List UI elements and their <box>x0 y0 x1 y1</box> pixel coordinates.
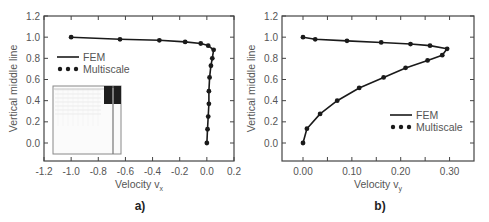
y-tick-label: 0.8 <box>264 53 278 64</box>
y-tick-label: 1.0 <box>26 32 40 43</box>
x-tick-label: 0.0 <box>200 166 214 177</box>
y-tick-label: 1.0 <box>264 32 278 43</box>
series-multiscale-marker <box>335 98 340 103</box>
panel-a-velocity-vx: -1.2-1.0-0.8-0.6-0.4-0.20.00.20.00.20.40… <box>7 11 241 214</box>
legend-multiscale-marker-swatch <box>66 67 70 71</box>
y-tick-label: 0.6 <box>26 74 40 85</box>
legend-multiscale-marker-swatch <box>407 125 411 129</box>
legend-multiscale-marker-swatch <box>399 125 403 129</box>
y-tick-label: 0.6 <box>264 74 278 85</box>
series-multiscale-marker <box>318 112 323 117</box>
series-multiscale-marker <box>206 101 211 106</box>
series-multiscale-marker <box>301 35 306 40</box>
x-tick-label: 0.00 <box>293 166 313 177</box>
legend: FEMMultiscale <box>57 51 130 75</box>
x-axis-label-subscript: x <box>159 185 163 192</box>
y-tick-label: 0.4 <box>26 95 40 106</box>
series-multiscale-marker <box>211 47 216 52</box>
x-axis-label: Velocity vy <box>354 178 402 193</box>
series-multiscale-marker <box>206 89 211 94</box>
x-tick-label: -0.2 <box>171 166 189 177</box>
y-tick-label: 1.2 <box>264 11 278 22</box>
y-tick-label: 0.2 <box>264 116 278 127</box>
series-multiscale-marker <box>198 41 203 46</box>
panel-label: a) <box>135 199 146 213</box>
legend-multiscale-marker-swatch <box>74 67 78 71</box>
series-multiscale-marker <box>445 46 450 51</box>
legend-fem-label: FEM <box>83 51 105 63</box>
legend-fem-label: FEM <box>416 109 438 121</box>
series-multiscale-marker <box>313 37 318 42</box>
series-multiscale-marker <box>69 35 74 40</box>
y-tick-label: 0.4 <box>264 95 278 106</box>
series-multiscale-marker <box>157 38 162 43</box>
series-multiscale-marker <box>428 43 433 48</box>
figure-canvas: -1.2-1.0-0.8-0.6-0.4-0.20.00.20.00.20.40… <box>0 0 489 222</box>
panel-b-velocity-vy: 0.000.100.200.300.00.20.40.60.81.01.2Ver… <box>245 11 474 214</box>
series-multiscale-marker <box>379 40 384 45</box>
y-tick-label: 0.0 <box>264 138 278 149</box>
x-tick-label: -0.4 <box>144 166 162 177</box>
x-axis-label-main: Velocity v <box>354 178 399 190</box>
x-axis-label-main: Velocity v <box>115 178 160 190</box>
y-tick-label: 0.2 <box>26 116 40 127</box>
y-axis-label: Vertical middle line <box>245 45 257 133</box>
x-tick-label: 0.30 <box>440 166 460 177</box>
legend-multiscale-marker-swatch <box>391 125 395 129</box>
y-tick-label: 0.0 <box>26 138 40 149</box>
x-axis-label: Velocity vx <box>115 178 163 192</box>
y-tick-label: 1.2 <box>26 11 40 22</box>
legend: FEMMultiscale <box>390 109 463 133</box>
series-multiscale-marker <box>425 58 430 63</box>
series-multiscale-marker <box>440 53 445 58</box>
panel-label: b) <box>374 199 385 213</box>
series-multiscale-marker <box>403 65 408 70</box>
legend-multiscale-label: Multiscale <box>416 121 463 133</box>
x-tick-label: -1.2 <box>35 166 53 177</box>
series-multiscale-marker <box>209 63 214 68</box>
x-tick-label: 0.20 <box>391 166 411 177</box>
series-multiscale-marker <box>301 141 306 146</box>
series-multiscale-marker <box>207 75 212 80</box>
figure: -1.2-1.0-0.8-0.6-0.4-0.20.00.20.00.20.40… <box>0 0 489 222</box>
series-multiscale-marker <box>204 141 209 146</box>
series-multiscale-marker <box>381 75 386 80</box>
x-tick-label: -1.0 <box>63 166 81 177</box>
inset-mesh-image <box>53 86 121 154</box>
x-axis-label-subscript: y <box>398 185 402 193</box>
legend-multiscale-marker-swatch <box>58 67 62 71</box>
x-tick-label: 0.2 <box>227 166 241 177</box>
series-multiscale-marker <box>183 40 188 45</box>
series-multiscale-marker <box>357 86 362 91</box>
series-multiscale-marker <box>345 38 350 43</box>
series-multiscale-marker <box>118 37 123 42</box>
x-tick-label: -0.6 <box>117 166 135 177</box>
y-axis-label: Vertical middle line <box>7 45 19 133</box>
series-multiscale-marker <box>305 126 310 131</box>
legend-multiscale-label: Multiscale <box>83 63 130 75</box>
series-multiscale-marker <box>205 127 210 132</box>
series-multiscale-marker <box>210 56 215 61</box>
series-multiscale-marker <box>408 42 413 47</box>
series-multiscale-marker <box>206 43 211 48</box>
y-tick-label: 0.8 <box>26 53 40 64</box>
x-tick-label: 0.10 <box>342 166 362 177</box>
series-multiscale-marker <box>206 114 211 119</box>
x-tick-label: -0.8 <box>90 166 108 177</box>
